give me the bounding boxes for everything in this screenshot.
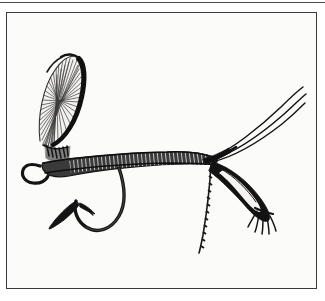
illustration-plate-border: Artificial fishing fly wet fly tied on a… — [6, 12, 317, 289]
top-rule-divider — [0, 2, 325, 3]
barred-fiber — [199, 163, 213, 253]
hook-point — [49, 201, 79, 229]
hackle-feather — [209, 162, 276, 234]
fly-drawing-group — [22, 54, 306, 253]
hook-barb — [79, 203, 95, 215]
illustration-page: Artificial fishing fly wet fly tied on a… — [0, 0, 325, 301]
fly-illustration — [7, 13, 318, 290]
wing — [39, 54, 84, 162]
tail-fibers — [203, 87, 306, 164]
